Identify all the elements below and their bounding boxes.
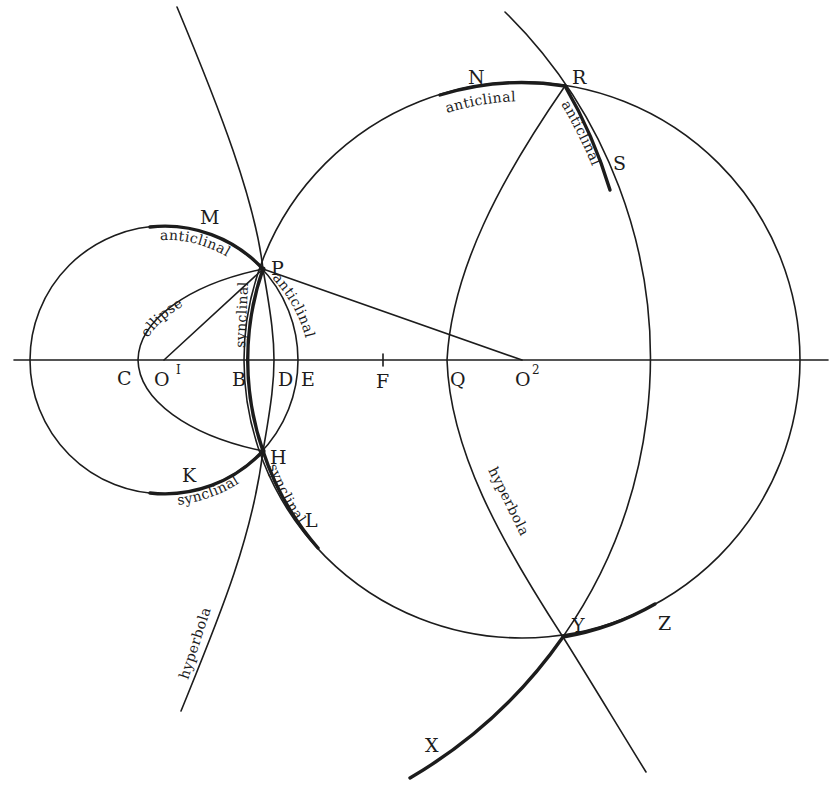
hyperbola-right-branch	[447, 86, 646, 772]
point-p-dot	[260, 266, 265, 271]
label-e: E	[301, 368, 315, 390]
label-r: R	[572, 66, 587, 88]
label-m: M	[200, 206, 219, 228]
label-b: B	[232, 368, 246, 390]
label-q: Q	[450, 368, 466, 390]
label-z: Z	[658, 612, 671, 634]
label-f: F	[376, 370, 389, 392]
label-o2-superscript: 2	[532, 363, 540, 377]
curve-label-hyperbola-right: hyperbola	[485, 464, 533, 538]
label-k: K	[182, 464, 197, 486]
point-h-dot	[260, 448, 265, 453]
label-o2: O	[515, 368, 531, 390]
geometry-diagram: M P C O I B D E F Q O 2 H K L N R S Y Z …	[0, 0, 833, 791]
hyperbola-left-branch	[177, 7, 274, 711]
label-s: S	[613, 152, 626, 174]
curve-label-synclinal-l: synclinal	[265, 461, 309, 526]
outer-arc-o1	[410, 12, 650, 778]
arc-x	[410, 637, 563, 778]
label-l: L	[305, 509, 318, 531]
label-n: N	[468, 66, 485, 88]
curve-label-ellipse: ellipse	[137, 294, 185, 339]
label-y: Y	[571, 614, 585, 636]
label-d: D	[278, 368, 293, 390]
label-c: C	[117, 367, 132, 389]
label-x: X	[425, 734, 439, 756]
curve-label-synclinal-b: synclinal	[232, 281, 251, 348]
label-o1-superscript: I	[176, 363, 181, 377]
label-o1: O	[154, 368, 170, 390]
curve-label-anticlinal-m: anticlinal	[160, 227, 234, 260]
